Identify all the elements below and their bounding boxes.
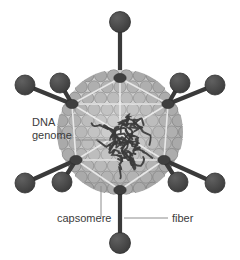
capsomere-unit (88, 148, 100, 160)
capsomere-unit (146, 70, 158, 82)
penton-lower-left (70, 155, 82, 164)
capsomere-unit (107, 160, 119, 172)
fiber-knob (15, 173, 35, 193)
fiber-knob (52, 172, 72, 192)
label-line-1: DNA (32, 116, 56, 128)
penton-top (114, 73, 126, 82)
fiber-knob (110, 233, 131, 254)
capsomere-unit (69, 115, 81, 127)
capsomere-unit (153, 81, 165, 93)
capsomere-unit (82, 137, 94, 149)
fiber-knob (168, 172, 188, 192)
capsomere-unit (153, 171, 165, 183)
capsomere-unit (56, 115, 68, 127)
penton-lower-right (158, 155, 170, 164)
capsomere-unit (172, 115, 184, 127)
adenovirus-diagram: DNAgenomecapsomerefiber (0, 0, 240, 260)
fiber-group-behind (110, 12, 131, 79)
fiber-knob (50, 73, 70, 93)
capsomere-unit (127, 103, 139, 115)
capsomere-unit (120, 92, 132, 104)
capsomere-unit (95, 92, 107, 104)
capsomere-unit (159, 115, 171, 127)
capsomere-unit (82, 70, 94, 82)
capsomere-unit (82, 182, 94, 194)
capsomere-unit (95, 160, 107, 172)
capsomere-unit (146, 137, 158, 149)
fiber-knob (170, 73, 190, 93)
virus-illustration: DNAgenomecapsomerefiber (0, 0, 240, 260)
penton-upper-right (162, 99, 174, 108)
penton-bottom (114, 185, 126, 194)
capsomere-unit (75, 126, 87, 138)
fiber-knob (15, 75, 35, 95)
capsomere-unit (75, 81, 87, 93)
capsomere-unit (166, 126, 178, 138)
capsomere-unit (179, 126, 191, 138)
capsomere-unit (140, 103, 152, 115)
capsomere-unit (75, 171, 87, 183)
capsomere-unit (95, 70, 107, 82)
capsomere-unit (133, 70, 145, 82)
fiber-knob (205, 173, 225, 193)
capsomere-unit (107, 92, 119, 104)
capsomere-unit (133, 92, 145, 104)
label-line-2: genome (32, 129, 72, 141)
capsomere-unit (172, 137, 184, 149)
fiber-knob (110, 12, 131, 33)
capsomere-unit (133, 182, 145, 194)
label-capsomere: capsomere (57, 212, 111, 224)
capsomere-unit (88, 126, 100, 138)
capsomere-unit (153, 126, 165, 138)
fiber-knob (205, 75, 225, 95)
label-line-1: capsomere (57, 212, 111, 224)
capsomere-unit (88, 103, 100, 115)
fiber-bottom (110, 190, 131, 254)
capsomere-unit (107, 115, 119, 127)
capsomere-unit (146, 182, 158, 194)
label-fiber: fiber (172, 212, 194, 224)
penton-upper-left (66, 99, 78, 108)
capsomere-unit (101, 103, 113, 115)
fiber-top (110, 12, 131, 79)
label-line-1: fiber (172, 212, 194, 224)
